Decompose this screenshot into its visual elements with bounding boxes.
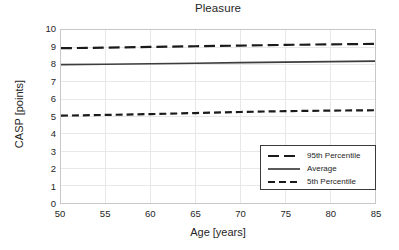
y-axis-tick-label: 0 [10,199,56,209]
legend-swatch-icon [267,150,301,162]
x-axis-tick-label: 85 [371,209,382,219]
x-axis-tick-label: 65 [190,209,201,219]
x-axis-tick-label: 80 [326,209,337,219]
y-axis-tick-label: 7 [10,77,56,87]
y-axis-tick-label: 6 [10,94,56,104]
x-axis-tick-label: 70 [235,209,246,219]
chart-title: Pleasure [60,2,376,14]
x-axis-tick-labels: 5055606570758085 [60,209,376,223]
legend-swatch-icon [267,163,301,175]
x-axis-tick-label: 60 [145,209,156,219]
x-axis-title: Age [years] [60,226,376,238]
y-axis-tick-label: 10 [10,24,56,34]
x-axis-tick-label: 75 [280,209,291,219]
y-axis-tick-labels: 012345678910 [8,29,56,204]
series-line [61,61,375,64]
legend-swatch-icon [267,176,301,188]
y-axis-tick-label: 1 [10,182,56,192]
y-axis-tick-label: 2 [10,164,56,174]
chart-container: Pleasure CASP [points] 012345678910 5055… [0,0,399,250]
data-series-group [61,44,375,116]
y-axis-tick-label: 3 [10,147,56,157]
x-axis-tick-label: 55 [100,209,111,219]
y-axis-tick-label: 5 [10,112,56,122]
legend-item-label: 5th Percentile [307,178,356,186]
legend-item-label: 95th Percentile [307,152,360,160]
x-axis-tick-label: 50 [55,209,66,219]
y-axis-tick-label: 8 [10,59,56,69]
legend-item[interactable]: Average [261,162,375,175]
y-axis-tick-label: 4 [10,129,56,139]
legend-item[interactable]: 5th Percentile [261,175,375,188]
legend-item[interactable]: 95th Percentile [261,149,375,162]
series-line [61,110,375,115]
legend-item-label: Average [307,165,337,173]
y-axis-tick-label: 9 [10,42,56,52]
chart-legend: 95th PercentileAverage5th Percentile [260,145,376,190]
